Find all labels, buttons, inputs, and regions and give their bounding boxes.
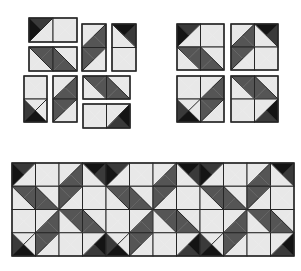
quilt-cell <box>247 210 271 233</box>
quilt-cell <box>271 233 295 256</box>
piece-8-square-corner-pair <box>82 103 131 129</box>
quilt-cell <box>130 210 154 233</box>
quilt-cell <box>130 186 154 209</box>
quilt-cell <box>177 186 201 209</box>
quilt-cell <box>59 233 83 256</box>
quilt-cell <box>200 210 224 233</box>
quilt-cell <box>153 210 177 233</box>
quilt-cell <box>53 76 77 99</box>
quilt-cell <box>231 24 255 47</box>
quilt-cell <box>255 76 279 99</box>
quilt-cell <box>177 76 201 99</box>
quilt-cell <box>112 24 136 48</box>
quilt-cell <box>231 99 255 122</box>
quilt-cell <box>112 48 136 72</box>
quilt-cell <box>201 76 225 99</box>
quilt-cell <box>83 76 107 99</box>
quilt-cell <box>255 24 279 47</box>
quilt-cell <box>271 186 295 209</box>
piece-3-vertical-band <box>81 23 107 72</box>
quilt-cell <box>53 18 77 42</box>
quilt-cell <box>36 210 60 233</box>
piece-5-square-corner-vertical <box>23 75 48 123</box>
quilt-cell <box>271 163 295 186</box>
quilt-cell <box>200 163 224 186</box>
piece-7-band-pair <box>82 75 131 100</box>
quilt-cell <box>83 163 107 186</box>
quilt-cell <box>130 233 154 256</box>
quilt-cell <box>83 210 107 233</box>
quilt-cell <box>231 76 255 99</box>
quilt-cell <box>247 233 271 256</box>
quilt-cell <box>224 163 248 186</box>
quilt-cell <box>12 163 36 186</box>
quilt-cell <box>36 233 60 256</box>
quilt-cell <box>12 186 36 209</box>
quilt-cell <box>200 233 224 256</box>
quilt-cell <box>36 186 60 209</box>
quilt-cell <box>177 210 201 233</box>
quilt-cell <box>24 99 47 122</box>
quilt-cell <box>107 104 131 128</box>
quilt-cell <box>231 47 255 70</box>
quilt-cell <box>177 233 201 256</box>
quilt-cell <box>201 24 225 47</box>
quilt-cell <box>106 233 130 256</box>
quilt-cell <box>29 47 53 71</box>
quilt-cell <box>106 210 130 233</box>
quilt-cell <box>255 47 279 70</box>
quilt-cell <box>24 76 47 99</box>
quilt-cell <box>271 210 295 233</box>
quilt-cell <box>201 99 225 122</box>
quilt-cell <box>247 186 271 209</box>
piece-6-vertical-band <box>52 75 78 123</box>
piece-1-corner-square-pair <box>28 17 78 43</box>
quilt-cell <box>29 18 53 42</box>
quilt-cell <box>224 233 248 256</box>
quilt-cell <box>83 233 107 256</box>
quilt-cell <box>255 99 279 122</box>
quilt-cell <box>82 48 106 72</box>
piece-2-band-pair <box>28 46 78 72</box>
quilt-cell <box>107 76 131 99</box>
quilt-cell <box>59 163 83 186</box>
quilt-cell <box>83 104 107 128</box>
quilt-cell <box>177 47 201 70</box>
quilt-cell <box>177 24 201 47</box>
quilt-cell <box>53 99 77 122</box>
quilt-cell <box>83 186 107 209</box>
quilt-cell <box>106 186 130 209</box>
quilt-cell <box>201 47 225 70</box>
quilt-cell <box>59 210 83 233</box>
quilt-cell <box>82 24 106 48</box>
quilt-cell <box>224 210 248 233</box>
quilt-cell <box>177 163 201 186</box>
piece-4-corner-square-vertical <box>111 23 137 72</box>
block-bottom-left <box>176 75 225 123</box>
quilt-cell <box>36 163 60 186</box>
quilt-cell <box>247 163 271 186</box>
quilt-cell <box>153 163 177 186</box>
assembled-quilt-strip <box>11 162 295 257</box>
quilt-cell <box>200 186 224 209</box>
quilt-cell <box>12 233 36 256</box>
quilt-cell <box>153 186 177 209</box>
quilt-cell <box>153 233 177 256</box>
quilt-cell <box>12 210 36 233</box>
quilt-cell <box>130 163 154 186</box>
block-top-right <box>230 23 279 71</box>
quilt-cell <box>106 163 130 186</box>
block-bottom-right <box>230 75 279 123</box>
quilt-cell <box>177 99 201 122</box>
quilt-cell <box>53 47 77 71</box>
block-top-left <box>176 23 225 71</box>
quilt-cell <box>224 186 248 209</box>
quilt-cell <box>59 186 83 209</box>
